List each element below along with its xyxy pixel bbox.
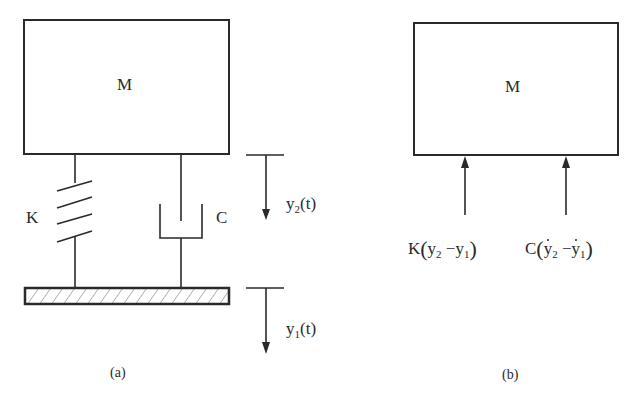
damper-force-arrow — [562, 156, 570, 215]
damper-force-coef: C — [525, 239, 536, 258]
y2-displacement-arrow — [246, 155, 284, 220]
y1-base: y — [286, 319, 295, 338]
paren-close: ) — [469, 236, 476, 261]
damper-force-label: C(y2 −y1) — [525, 236, 593, 258]
term-a-sub: 2 — [552, 248, 558, 260]
term-a-dot: y — [544, 240, 553, 257]
y1-sub: 1 — [295, 328, 301, 340]
caption-b: (b) — [502, 368, 518, 382]
y1-displacement-arrow — [246, 288, 284, 354]
caption-a: (a) — [110, 366, 126, 380]
paren-close: ) — [586, 236, 593, 261]
term-b-sub: 1 — [580, 248, 586, 260]
spring-force-coef: K — [408, 239, 420, 258]
spring-icon — [57, 154, 92, 287]
y2-arg: (t) — [300, 194, 316, 213]
diagram-canvas — [0, 0, 639, 404]
term-b-dot: y — [572, 240, 581, 257]
y1-label: y1(t) — [286, 320, 316, 337]
y2-sub: 2 — [295, 203, 301, 215]
base-plate — [25, 288, 229, 304]
paren-open: ( — [420, 236, 427, 261]
term-b: y — [455, 239, 464, 258]
diagram-b — [414, 23, 618, 215]
y1-arg: (t) — [300, 319, 316, 338]
term-a-sub: 2 — [436, 248, 442, 260]
diagram-a — [24, 20, 284, 354]
y2-label: y2(t) — [286, 195, 316, 212]
paren-open: ( — [536, 236, 543, 261]
mass-label-b: M — [505, 78, 520, 95]
spring-force-label: K(y2 −y1) — [408, 236, 477, 258]
damper-label: C — [216, 209, 227, 226]
mass-label-a: M — [117, 76, 132, 93]
spring-label: K — [26, 209, 38, 226]
damper-icon — [160, 154, 202, 287]
spring-force-arrow — [461, 156, 469, 215]
minus-sign: − — [446, 239, 456, 258]
y2-base: y — [286, 194, 295, 213]
term-a: y — [428, 239, 437, 258]
minus-sign: − — [562, 239, 572, 258]
